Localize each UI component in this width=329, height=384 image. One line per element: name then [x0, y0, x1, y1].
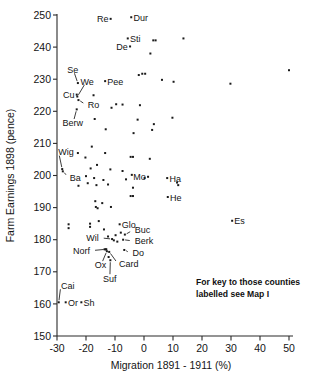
data-point	[93, 177, 95, 179]
y-tick-label: 170	[33, 265, 51, 277]
point-label: Cai	[61, 281, 75, 291]
y-tick-label: 180	[33, 233, 51, 245]
x-tick-label: 30	[225, 342, 237, 354]
data-point-labelled	[77, 99, 79, 101]
data-point	[171, 117, 173, 119]
data-point-labelled	[108, 251, 110, 253]
data-point	[120, 232, 122, 234]
point-label: Mo	[133, 172, 146, 182]
point-label: Cu	[63, 90, 75, 100]
data-point	[182, 37, 184, 39]
data-point-labelled	[231, 220, 233, 222]
data-point	[130, 156, 132, 158]
data-point	[107, 183, 109, 185]
point-label: Wig	[58, 147, 74, 157]
key-note-line: labelled see Map I	[196, 289, 269, 299]
x-axis-title: Migration 1891 - 1911 (%)	[111, 359, 232, 371]
point-label: We	[80, 77, 93, 87]
data-point	[95, 206, 97, 208]
data-point	[94, 200, 96, 202]
data-point	[137, 119, 139, 121]
point-label: Ro	[88, 100, 100, 110]
data-point	[105, 128, 107, 130]
data-point	[110, 206, 112, 208]
data-point	[104, 152, 106, 154]
data-point	[138, 74, 140, 76]
data-point-labelled	[61, 168, 63, 170]
point-label: Sh	[84, 298, 95, 308]
data-point-labelled	[166, 177, 168, 179]
chart-canvas: 150160170180190200210220230240250-30-20-…	[0, 0, 329, 384]
data-point	[98, 220, 100, 222]
data-point-labelled	[105, 248, 107, 250]
data-point	[130, 195, 132, 197]
data-point	[91, 146, 93, 148]
point-label: Ox	[95, 260, 107, 270]
point-label: Es	[234, 216, 245, 226]
data-point	[177, 184, 179, 186]
data-point	[115, 234, 117, 236]
data-point	[68, 223, 70, 225]
leader-line	[64, 173, 66, 175]
data-point	[97, 207, 99, 209]
data-point	[152, 39, 154, 41]
data-point-labelled	[167, 196, 169, 198]
point-label: Do	[132, 248, 144, 258]
leader-line	[126, 251, 128, 252]
data-point	[108, 256, 110, 258]
data-point	[87, 182, 89, 184]
data-point-labelled	[62, 170, 64, 172]
data-point	[122, 170, 124, 172]
x-tick-label: -30	[49, 342, 64, 354]
data-point	[107, 235, 109, 237]
data-point-labelled	[122, 239, 124, 241]
y-tick-label: 250	[33, 9, 51, 21]
data-point	[103, 228, 105, 230]
leader-line	[95, 249, 104, 250]
x-tick-label: -10	[107, 342, 122, 354]
data-point	[122, 104, 124, 106]
point-label: Buc	[135, 225, 151, 235]
data-point	[111, 107, 113, 109]
data-point-labelled	[123, 249, 125, 251]
data-point	[132, 195, 134, 197]
data-point-labelled	[80, 301, 82, 303]
data-point	[132, 187, 134, 189]
data-point-labelled	[109, 259, 111, 261]
point-label: Ba	[70, 173, 81, 183]
y-tick-label: 240	[33, 41, 51, 53]
leader-line	[125, 240, 130, 241]
data-point	[139, 104, 141, 106]
data-point-labelled	[77, 82, 79, 84]
data-point	[144, 73, 146, 75]
y-tick-label: 160	[33, 298, 51, 310]
data-point	[95, 184, 97, 186]
data-point	[161, 79, 163, 81]
data-point	[89, 223, 91, 225]
data-point	[68, 227, 70, 229]
data-point	[93, 94, 95, 96]
x-tick-label: -20	[78, 342, 93, 354]
leader-line	[59, 289, 60, 300]
data-point	[77, 185, 79, 187]
data-point	[155, 39, 157, 41]
data-point-labelled	[127, 37, 129, 39]
point-label: Berk	[135, 236, 154, 246]
point-label: Suf	[103, 274, 117, 284]
data-point-labelled	[119, 223, 121, 225]
point-label: Dur	[133, 13, 148, 23]
point-label: Sti	[130, 34, 141, 44]
y-axis-title: Farm Earnings 1898 (pence)	[4, 109, 16, 243]
point-label: He	[170, 193, 182, 203]
y-tick-label: 210	[33, 137, 51, 149]
data-point	[85, 175, 87, 177]
data-point	[141, 73, 143, 75]
x-tick-label: 20	[196, 342, 208, 354]
data-point	[125, 178, 127, 180]
data-point	[101, 202, 103, 204]
data-point	[116, 241, 118, 243]
data-point	[109, 168, 111, 170]
data-point	[77, 152, 79, 154]
data-point-labelled	[106, 250, 108, 252]
data-point	[132, 156, 134, 158]
